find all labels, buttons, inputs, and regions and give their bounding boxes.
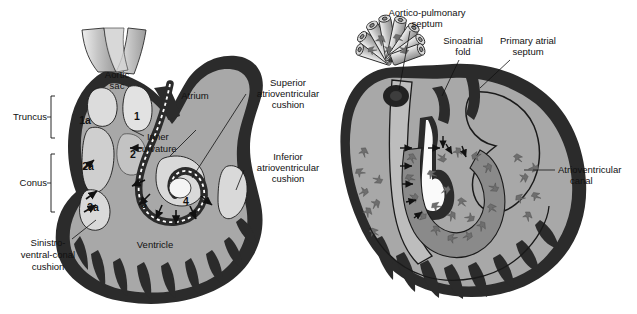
segment-1-cushion	[123, 86, 152, 131]
sinistro-label-line3: cushion	[32, 261, 65, 272]
inner-curvature-label-line1: Inner	[147, 131, 169, 142]
marker-3: 3	[141, 198, 147, 210]
truncus-label: Truncus	[13, 111, 47, 122]
atrioventricular-canal-label-line2: canal	[570, 175, 593, 186]
sinoatrial-fold-label-line1: Sinoatrial	[443, 35, 483, 46]
aortico-pulmonary-septum-label-line1: Aortico-pulmonary	[388, 7, 465, 18]
sinistro-label-line1: Sinistro-	[31, 237, 66, 248]
inferior-av-cushion-label-line2: atrioventricular	[257, 162, 319, 173]
aortico-pulmonary-ostium-inner	[390, 91, 402, 101]
marker-3a: 3a	[87, 201, 99, 213]
aortic-sac-label-line2: sac	[110, 80, 125, 91]
atrium-label: Atrium	[181, 90, 209, 101]
inferior-av-cushion-label-line3: cushion	[272, 173, 305, 184]
inferior-av-cushion-label-line1: Inferior	[273, 151, 303, 162]
ventricle-label: Ventricle	[137, 239, 173, 250]
marker-4: 4	[183, 195, 189, 207]
sinistro-label-line2: ventral-conal	[21, 249, 75, 260]
superior-av-cushion-label-line2: atrioventricular	[257, 88, 319, 99]
aortic-sac-label-line1: Aortic	[105, 69, 130, 80]
superior-av-cushion-label-line3: cushion	[272, 99, 305, 110]
primary-atrial-septum-label-line2: septum	[512, 46, 543, 57]
atrioventricular-canal-label-line1: Atrioventricular	[558, 164, 621, 175]
marker-1a: 1a	[79, 114, 91, 126]
sinoatrial-fold-label-line2: fold	[455, 46, 470, 57]
marker-1: 1	[134, 110, 140, 122]
figure-root: 1a 1 2a 2 3a 3 4 Aortic sac Atrium Ventr…	[0, 0, 637, 314]
primary-atrial-septum-label-line1: Primary atrial	[500, 35, 556, 46]
segment-1a-cushion	[87, 88, 117, 127]
marker-2a: 2a	[82, 160, 94, 172]
superior-av-cushion-label-line1: Superior	[270, 77, 306, 88]
marker-2: 2	[130, 148, 136, 160]
anatomy-diagram-svg: 1a 1 2a 2 3a 3 4 Aortic sac Atrium Ventr…	[0, 0, 637, 314]
aortico-pulmonary-septum-label-line2: septum	[411, 18, 442, 29]
inner-curvature-label-line2: curvature	[137, 143, 177, 154]
conus-label: Conus	[20, 177, 48, 188]
